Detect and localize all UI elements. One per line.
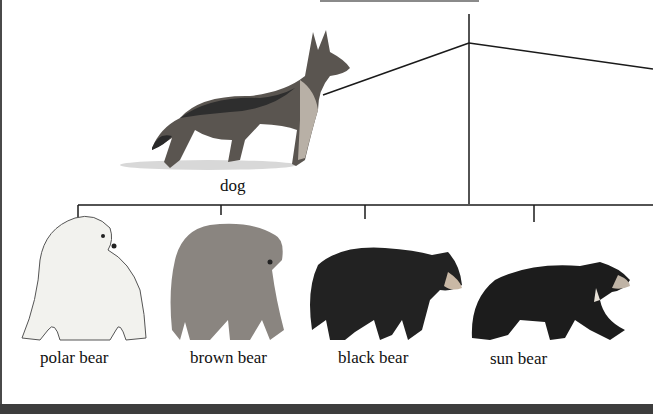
- outgroup-branch: [469, 43, 653, 69]
- label-polar-bear: polar bear: [40, 348, 108, 368]
- dog-illustration: [120, 30, 350, 170]
- polar-bear-illustration: [22, 216, 146, 340]
- label-brown-bear: brown bear: [190, 348, 267, 368]
- black-bear-illustration: [310, 248, 462, 340]
- brown-bear-illustration: [171, 224, 284, 340]
- label-dog: dog: [220, 176, 246, 196]
- label-sun-bear: sun bear: [490, 349, 547, 369]
- sun-bear-illustration: [472, 262, 630, 340]
- label-black-bear: black bear: [338, 348, 408, 368]
- frame-bottom-border: [0, 404, 653, 414]
